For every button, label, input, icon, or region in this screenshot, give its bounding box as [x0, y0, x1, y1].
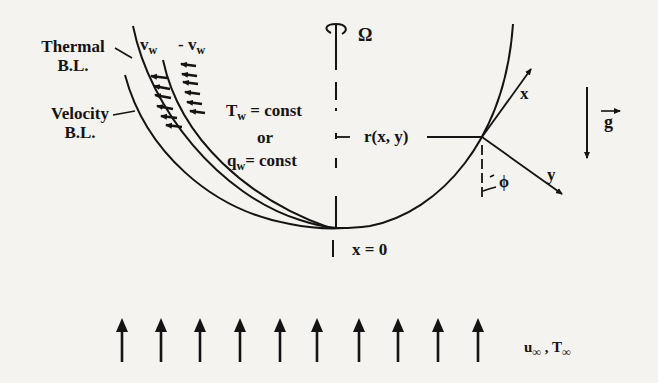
tw-main: T — [226, 101, 237, 120]
thermal-bl-label: Thermal B.L. — [32, 38, 114, 74]
freestream-separator: , — [541, 339, 552, 355]
qw-sub: w — [236, 159, 245, 173]
neg-v-w-label: - vw — [178, 36, 205, 56]
freestream-label: u∞ , T∞ — [524, 340, 570, 358]
y-axis-label: y — [547, 166, 556, 183]
gravity-label: g — [604, 113, 613, 131]
thermal-leader — [115, 48, 132, 58]
velocity-bl-label: Velocity B.L. — [40, 105, 120, 141]
thermal-bl-curve — [163, 60, 330, 228]
wall-heatflux-condition: qw= const — [227, 152, 297, 172]
diagram-figure: Thermal B.L. Velocity B.L. vw - vw Ω Tw … — [0, 0, 658, 383]
neg-v-w-main: - v — [178, 35, 196, 54]
t-inf-sub: ∞ — [562, 345, 571, 359]
rotation-axis — [333, 25, 336, 257]
v-w-main: v — [140, 35, 149, 54]
angle-phi-label: ϕ — [499, 174, 509, 190]
velocity-label-line1: Velocity — [40, 105, 120, 122]
v-w-sub: w — [149, 43, 158, 57]
omega-label: Ω — [358, 26, 372, 44]
thermal-label-line2: B.L. — [32, 57, 114, 74]
u-inf-sub: ∞ — [532, 345, 541, 359]
velocity-label-line2: B.L. — [40, 124, 120, 141]
neg-v-w-arrows — [181, 64, 205, 113]
x-axis-line — [482, 69, 531, 137]
v-w-label: vw — [140, 36, 157, 56]
x-axis-label: x — [520, 85, 529, 102]
tw-sub: w — [237, 109, 246, 123]
angle-arc — [483, 187, 496, 191]
freestream-arrows — [122, 330, 478, 362]
t-inf-main: T — [552, 339, 562, 355]
thermal-label-line1: Thermal — [32, 38, 114, 55]
neg-v-w-sub: w — [196, 43, 205, 57]
or-label: or — [257, 129, 273, 146]
origin-label: x = 0 — [352, 241, 387, 258]
qw-rest: = const — [245, 151, 297, 170]
wall-temperature-condition: Tw = const — [226, 102, 302, 122]
radius-label: r(x, y) — [364, 128, 408, 145]
tw-rest: = const — [246, 101, 302, 120]
